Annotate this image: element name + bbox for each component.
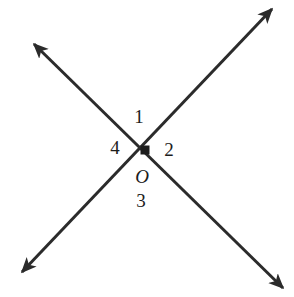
angle-label-1: 1 [134, 107, 144, 126]
lines-group [22, 9, 283, 288]
angle-label-3: 3 [136, 191, 146, 210]
line-nw-se [34, 44, 283, 288]
angle-label-4: 4 [110, 138, 120, 157]
diagram-canvas [0, 0, 294, 297]
angle-label-2: 2 [164, 140, 174, 159]
geometry-diagram: 1 2 3 4 O [0, 0, 294, 297]
line-ne-sw [22, 9, 272, 272]
vertex-point-label-o: O [135, 167, 149, 186]
vertex-point-marker [141, 146, 150, 155]
